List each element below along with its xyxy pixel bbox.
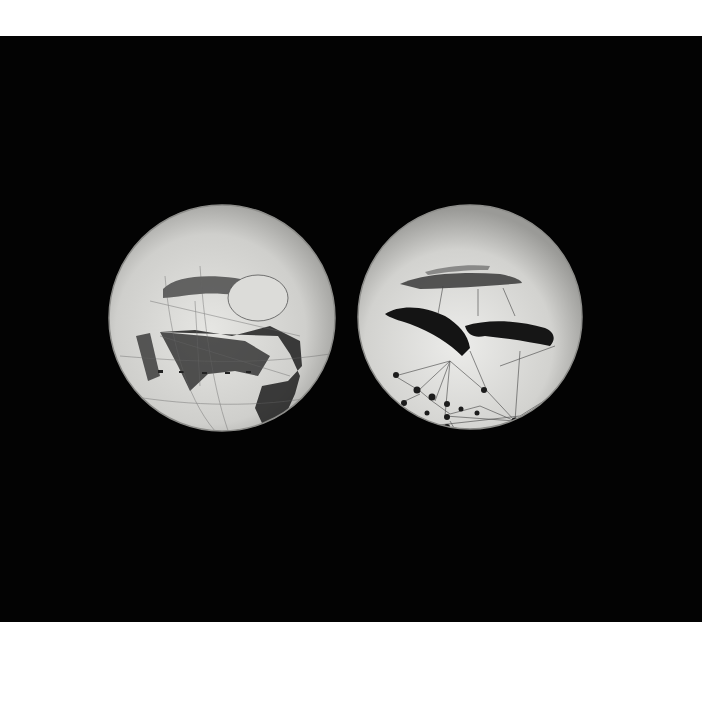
right-globe [358,205,582,456]
photo-plate [0,36,702,622]
left-globe [109,205,335,438]
mars-globes-illustration [0,36,702,622]
